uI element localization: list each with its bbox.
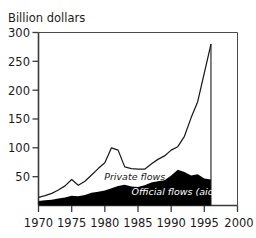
x-tick-label-1995: 1995: [190, 216, 219, 230]
annotation-private-flows: Private flows: [104, 171, 165, 182]
y-axis-tick-labels: 300 250 200 150 100 50: [8, 26, 30, 184]
x-tick-label-1980: 1980: [90, 216, 119, 230]
y-tick-label-100: 100: [8, 141, 30, 155]
y-tick-label-200: 200: [8, 84, 30, 98]
y-tick-label-300: 300: [8, 26, 30, 40]
x-tick-label-1990: 1990: [157, 216, 186, 230]
y-tick-label-250: 250: [8, 55, 30, 69]
y-axis-ticks: [33, 33, 39, 177]
chart-canvas: Billion dollars 300 250 200 150 100 50: [0, 0, 256, 238]
annotation-official-flows: Official flows (aid): [132, 186, 218, 197]
x-tick-label-1970: 1970: [24, 216, 53, 230]
y-tick-label-150: 150: [8, 112, 30, 126]
y-tick-label-50: 50: [15, 170, 30, 184]
x-tick-label-1975: 1975: [57, 216, 86, 230]
x-axis-tick-labels: 1970 1975 1980 1985 1990 1995 2000: [24, 216, 254, 230]
x-axis-ticks: [39, 206, 238, 213]
chart-figure: Billion dollars 300 250 200 150 100 50: [0, 0, 256, 238]
x-tick-label-1985: 1985: [123, 216, 152, 230]
y-axis-title: Billion dollars: [8, 11, 85, 25]
x-tick-label-2000: 2000: [224, 216, 253, 230]
